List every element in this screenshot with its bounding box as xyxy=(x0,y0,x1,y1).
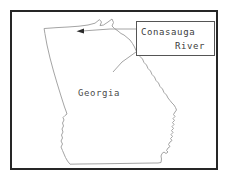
state-label-georgia: Georgia xyxy=(78,88,120,98)
callout-label-line-2: River xyxy=(137,39,214,53)
callout-box-conasauga-river: Conasauga River xyxy=(136,21,215,56)
callout-label-line-1: Conasauga xyxy=(137,25,214,39)
figure-canvas: Georgia Conasauga River xyxy=(0,0,236,183)
